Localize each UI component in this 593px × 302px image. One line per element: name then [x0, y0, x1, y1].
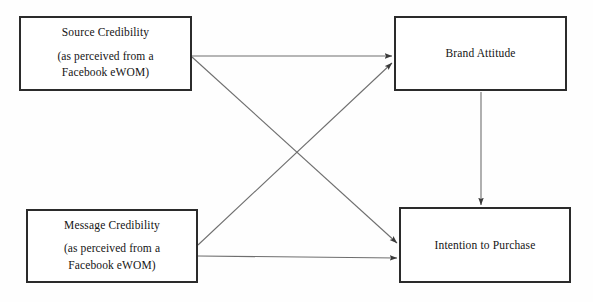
node-message-credibility-subtitle-line2: Facebook eWOM) [64, 257, 160, 274]
conceptual-model-diagram: Source Credibility (as perceived from a … [0, 0, 593, 302]
node-source-credibility-subtitle-line1: (as perceived from a [57, 48, 153, 65]
edge-message-to-brand-attitude [198, 63, 392, 245]
edge-message-to-intention [198, 256, 397, 258]
node-source-credibility-title: Source Credibility [62, 26, 149, 39]
node-message-credibility[interactable]: Message Credibility (as perceived from a… [26, 209, 198, 283]
node-source-credibility[interactable]: Source Credibility (as perceived from a … [19, 16, 192, 91]
node-message-credibility-subtitle: (as perceived from a Facebook eWOM) [64, 240, 160, 273]
node-message-credibility-title: Message Credibility [64, 219, 160, 232]
node-message-credibility-subtitle-line1: (as perceived from a [64, 240, 160, 257]
node-brand-attitude-title: Brand Attitude [445, 47, 515, 60]
node-brand-attitude[interactable]: Brand Attitude [394, 16, 567, 91]
node-intention-to-purchase[interactable]: Intention to Purchase [399, 207, 571, 283]
node-source-credibility-subtitle: (as perceived from a Facebook eWOM) [57, 48, 153, 81]
node-source-credibility-subtitle-line2: Facebook eWOM) [57, 64, 153, 81]
edge-source-to-intention [192, 57, 397, 243]
node-intention-to-purchase-title: Intention to Purchase [435, 239, 536, 252]
